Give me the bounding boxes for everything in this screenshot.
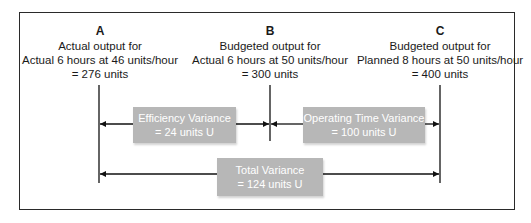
total-variance-value: = 124 units U — [217, 177, 323, 191]
operating-time-variance-title: Operating Time Variance — [303, 111, 425, 125]
efficiency-variance-value: = 24 units U — [133, 125, 236, 139]
total-variance-box: Total Variance = 124 units U — [217, 158, 323, 196]
total-variance-title: Total Variance — [217, 163, 323, 177]
operating-time-variance-value: = 100 units U — [303, 125, 425, 139]
operating-time-variance-box: Operating Time Variance = 100 units U — [303, 107, 425, 143]
efficiency-variance-box: Efficiency Variance = 24 units U — [133, 107, 236, 143]
efficiency-variance-title: Efficiency Variance — [133, 111, 236, 125]
